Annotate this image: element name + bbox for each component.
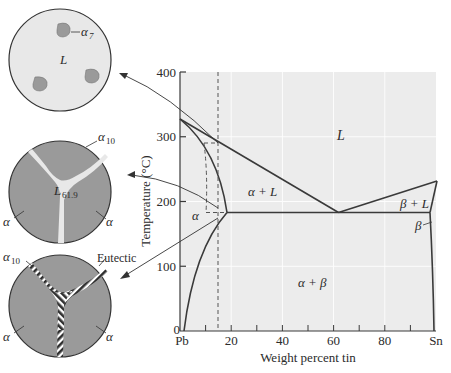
region-label-beta-plus-liquid: β + L <box>399 196 429 211</box>
svg-text:60: 60 <box>327 333 340 348</box>
region-label-alpha-plus-beta: α + β <box>298 275 327 290</box>
svg-text:10: 10 <box>11 256 21 266</box>
phase-diagram-figure: L α + L α β + L β α + β 400 300 200 100 … <box>0 0 451 373</box>
region-label-beta: β <box>414 218 422 233</box>
svg-text:α: α <box>106 329 114 344</box>
svg-text:α: α <box>106 214 114 229</box>
y-axis-label: Temperature (°C) <box>138 155 153 246</box>
svg-text:α: α <box>81 24 89 39</box>
eutectic-label: Eutectic <box>97 251 136 265</box>
x-tick-labels: Pb 20 40 60 80 Sn <box>175 333 443 348</box>
alpha-particle <box>57 23 70 37</box>
svg-text:10: 10 <box>106 136 116 146</box>
arrow-heads <box>119 73 135 279</box>
svg-text:α: α <box>3 214 11 229</box>
alpha-particle <box>85 69 99 83</box>
svg-text:Pb: Pb <box>175 333 189 348</box>
svg-text:7: 7 <box>89 31 94 41</box>
region-label-liquid: L <box>336 128 345 143</box>
alpha-particle <box>33 77 47 91</box>
y-tick-labels: 400 300 200 100 0 <box>157 65 181 337</box>
x-axis-label: Weight percent tin <box>260 350 356 365</box>
region-label-alpha: α <box>192 208 200 223</box>
svg-text:200: 200 <box>157 194 177 209</box>
svg-text:20: 20 <box>225 333 238 348</box>
svg-text:α: α <box>3 249 11 264</box>
region-label-alpha-plus-liquid: α + L <box>248 184 277 199</box>
svg-text:40: 40 <box>276 333 289 348</box>
svg-text:α: α <box>98 129 106 144</box>
microstructure-2: α 10 L 61.9 α α <box>3 129 116 243</box>
svg-text:α: α <box>3 329 11 344</box>
svg-text:L: L <box>59 52 67 67</box>
svg-text:61.9: 61.9 <box>62 190 78 200</box>
plot-area: L α + L α β + L β α + β <box>180 72 437 331</box>
microstructure-3: α 10 Eutectic α α <box>3 249 136 357</box>
svg-text:300: 300 <box>157 129 177 144</box>
svg-text:100: 100 <box>157 259 177 274</box>
svg-text:Sn: Sn <box>429 333 443 348</box>
microstructure-1: α 7 L <box>9 9 111 111</box>
svg-text:80: 80 <box>378 333 391 348</box>
svg-text:400: 400 <box>157 65 177 80</box>
svg-text:L: L <box>53 183 61 198</box>
